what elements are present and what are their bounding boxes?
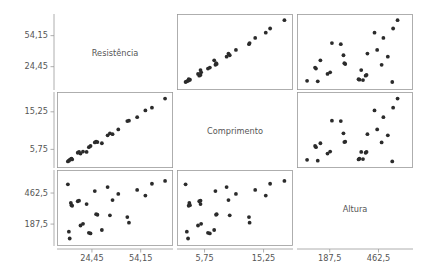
data-point — [283, 179, 287, 183]
data-point — [373, 31, 377, 35]
data-point — [199, 222, 203, 226]
data-point — [208, 232, 212, 236]
data-point — [268, 27, 272, 31]
data-point — [359, 68, 363, 72]
data-point — [373, 109, 377, 113]
data-point — [184, 182, 188, 186]
data-point — [228, 213, 232, 217]
data-point — [225, 185, 229, 189]
data-point — [214, 189, 218, 193]
y-tick-label: 5,75 — [30, 144, 48, 154]
data-point — [187, 204, 191, 208]
data-point — [380, 141, 384, 145]
data-point — [247, 215, 251, 219]
x-tick-label: 5,75 — [195, 253, 213, 263]
data-point — [89, 232, 93, 236]
y-tick-label: 15,25 — [25, 106, 48, 116]
data-point — [234, 192, 238, 196]
data-point — [135, 188, 139, 192]
data-point — [111, 132, 115, 136]
panel-frame — [297, 14, 412, 89]
data-point — [357, 158, 361, 162]
data-point — [365, 73, 369, 77]
data-point — [81, 222, 85, 226]
y-axis-resistencia: 24,4554,15 — [25, 14, 54, 90]
data-point — [328, 150, 332, 154]
data-point — [253, 188, 257, 192]
data-point — [366, 52, 370, 56]
data-point — [96, 213, 100, 217]
variable-label-resistencia: Resistência — [92, 48, 138, 58]
data-point — [316, 159, 320, 163]
x-tick-label: 462,5 — [367, 253, 390, 263]
data-point — [111, 198, 115, 202]
scatter-panel-resistencia-vs-comprimento — [57, 92, 172, 167]
data-point — [359, 150, 363, 154]
y-tick-label: 54,15 — [25, 30, 48, 40]
data-point — [150, 182, 154, 186]
data-point — [366, 132, 370, 136]
data-point — [386, 133, 390, 137]
x-axis-comprimento: 5,7515,25 — [177, 249, 293, 263]
data-point — [339, 119, 343, 123]
diagonal-cell-resistencia: Resistência — [92, 48, 138, 58]
data-point — [199, 202, 203, 206]
data-point — [100, 228, 104, 232]
data-point — [365, 150, 369, 154]
data-point — [163, 97, 167, 101]
data-point — [150, 106, 154, 110]
data-point — [380, 63, 384, 67]
data-point — [116, 128, 120, 132]
data-point — [328, 70, 332, 74]
data-point — [319, 58, 323, 62]
data-point — [316, 79, 320, 83]
data-point — [199, 199, 203, 203]
data-point — [70, 158, 74, 162]
data-point — [85, 202, 89, 206]
diagonal-cell-comprimento: Comprimento — [207, 126, 263, 136]
x-axis-resistencia: 24,4554,15 — [57, 249, 173, 263]
data-point — [396, 97, 400, 101]
data-point — [125, 215, 129, 219]
data-point — [342, 140, 346, 144]
scatter-panel-comprimento-vs-altura — [177, 170, 292, 245]
data-point — [313, 66, 317, 70]
data-point — [391, 106, 395, 110]
panel-frame — [57, 92, 172, 167]
x-tick-label: 24,45 — [80, 253, 103, 263]
data-point — [357, 77, 361, 81]
x-axis-altura: 187,5462,5 — [297, 249, 413, 263]
data-point — [77, 199, 81, 203]
data-point — [381, 36, 385, 40]
data-point — [85, 150, 89, 154]
data-point — [187, 77, 191, 81]
data-point — [342, 53, 346, 57]
data-point — [386, 55, 390, 59]
data-point — [283, 18, 287, 22]
data-point — [391, 27, 395, 31]
data-point — [342, 131, 346, 135]
scatterplot-matrix: ResistênciaComprimentoAltura24,4554,155,… — [0, 0, 425, 278]
data-point — [361, 78, 365, 82]
panel-frame — [57, 170, 172, 245]
data-point — [143, 194, 147, 198]
data-point — [108, 213, 112, 217]
data-point — [106, 185, 110, 189]
variable-label-comprimento: Comprimento — [207, 126, 263, 136]
data-point — [208, 66, 212, 70]
data-point — [319, 141, 323, 145]
panel-frame — [177, 170, 292, 245]
data-point — [212, 228, 216, 232]
variable-label-altura: Altura — [343, 204, 368, 214]
data-point — [143, 109, 147, 113]
data-point — [163, 179, 167, 183]
data-point — [248, 221, 252, 225]
data-point — [127, 119, 131, 123]
data-point — [305, 158, 309, 162]
data-point — [89, 144, 93, 148]
data-point — [305, 79, 309, 83]
data-point — [330, 41, 334, 45]
scatter-panel-altura-vs-comprimento — [297, 92, 412, 167]
data-point — [66, 182, 70, 186]
data-point — [396, 18, 400, 22]
